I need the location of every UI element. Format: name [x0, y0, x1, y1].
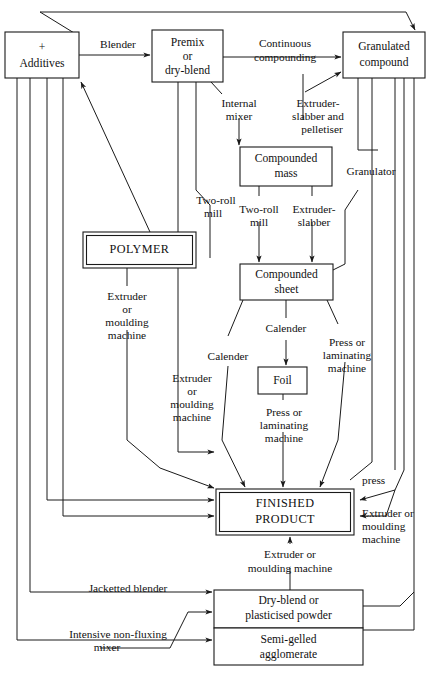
label-pl1-l1: laminating — [323, 349, 372, 361]
label-granulator: Granulator — [347, 165, 396, 177]
label-em3-l2: machine — [362, 533, 400, 545]
box-granulated-line-1: compound — [360, 56, 409, 69]
label-press-laminating-1: Press or laminating machine — [323, 336, 372, 374]
box-semigelled-line-0: Semi-gelled — [260, 633, 316, 646]
label-calender-1: Calender — [266, 322, 307, 334]
label-tworoll1-l1: mill — [204, 207, 222, 219]
box-compounded-sheet[interactable]: Compounded sheet — [240, 264, 333, 300]
label-em2-l0: Extruder — [172, 372, 212, 384]
label-pelletiser-l1: slabber and — [292, 110, 344, 122]
label-intensive-l0: Intensive non-fluxing — [69, 628, 167, 640]
label-extruder-slabber-pelletiser: Extruder- slabber and pelletiser — [292, 97, 344, 135]
label-em4-l0: Extruder or — [264, 548, 316, 560]
label-em3-l0: Extruder or — [362, 507, 414, 519]
edge-granulated-down-1 — [350, 78, 372, 480]
box-csheet-line-1: sheet — [275, 283, 300, 296]
label-pelletiser-l2: pelletiser — [301, 123, 343, 135]
label-pl2-l0: Press or — [266, 406, 302, 418]
label-calender-2: Calender — [208, 350, 249, 362]
box-additives-line-0: + — [39, 41, 46, 54]
label-extruder-moulding-3: Extruder or moulding machine — [362, 507, 414, 545]
connector-lines — [17, 12, 415, 648]
edge-granulated-granulator-a — [358, 78, 378, 150]
label-em1-l3: machine — [108, 329, 146, 341]
label-continuous-l0: Continuous — [259, 37, 311, 49]
box-dry-blend[interactable]: Dry-blend or plasticised powder — [214, 590, 363, 628]
label-extruder-slabber: Extruder- slabber — [292, 203, 335, 228]
label-two-roll-mill-2: Two-roll mill — [239, 203, 278, 228]
label-pl1-l2: machine — [328, 362, 366, 374]
label-em2-l1: or — [187, 385, 197, 397]
edge-press-to-finished — [320, 362, 345, 487]
label-two-roll-mill-1: Two-roll mill — [196, 194, 235, 219]
edge-polymer-to-additives — [81, 82, 150, 232]
box-foil-label: Foil — [273, 374, 292, 387]
label-extruder-moulding-1: Extruder or moulding machine — [105, 290, 149, 341]
label-em4-l1: moulding machine — [248, 562, 332, 574]
label-internal-mixer: Internal mixer — [221, 97, 256, 122]
box-dryblend-line-1: plasticised powder — [245, 609, 332, 622]
edge-csheet-calender2-stem — [228, 300, 243, 336]
box-finished-line-0: FINISHED — [256, 496, 315, 510]
label-pelletiser-l0: Extruder- — [296, 97, 339, 109]
edge-additives-down-1 — [17, 78, 212, 640]
label-intensive-l1: mixer — [94, 641, 121, 653]
label-tworoll1-l0: Two-roll — [196, 194, 235, 206]
box-cmass-line-1: mass — [274, 167, 298, 180]
edge-csheet-press-stem — [327, 300, 338, 324]
box-finished-line-1: PRODUCT — [255, 512, 315, 526]
edge-calender2-to-finished — [222, 366, 245, 487]
label-em1-l2: moulding — [105, 316, 149, 328]
box-finished-product[interactable]: FINISHED PRODUCT — [216, 489, 354, 535]
edge-pelletiser-to-granulated — [305, 72, 341, 92]
label-internal-l1: mixer — [226, 110, 253, 122]
box-premix-line-0: Premix — [171, 36, 205, 49]
label-em1-l0: Extruder — [107, 290, 147, 302]
label-press: press — [362, 474, 385, 486]
box-granulated-line-0: Granulated — [358, 40, 410, 53]
label-tworoll2-l0: Two-roll — [239, 203, 278, 215]
label-slabber-l1: slabber — [298, 216, 331, 228]
label-extruder-moulding-4: Extruder or moulding machine — [248, 548, 332, 574]
label-jacketted-blender: Jacketted blender — [89, 582, 168, 594]
box-granulated-compound[interactable]: Granulated compound — [343, 32, 425, 78]
label-em2-l2: moulding — [170, 398, 214, 410]
box-premix-line-2: dry-blend — [165, 64, 210, 77]
edge-premix-to-internalmixer — [211, 82, 222, 94]
label-em1-l1: or — [122, 303, 132, 315]
label-em2-l3: machine — [173, 411, 211, 423]
flowchart-canvas: + Additives Premix or dry-blend Granulat… — [0, 0, 434, 675]
box-cmass-line-0: Compounded — [255, 152, 318, 165]
label-press-laminating-2: Press or laminating machine — [260, 406, 309, 444]
box-compounded-mass[interactable]: Compounded mass — [240, 147, 332, 186]
label-em3-l1: moulding — [362, 520, 406, 532]
box-premix-line-1: or — [183, 50, 193, 63]
label-blender: Blender — [100, 38, 136, 50]
box-polymer[interactable]: POLYMER — [83, 232, 196, 268]
edge-granulator-to-csheet — [333, 190, 358, 270]
label-extruder-moulding-2: Extruder or moulding machine — [170, 372, 214, 423]
box-polymer-label: POLYMER — [110, 242, 170, 256]
box-premix[interactable]: Premix or dry-blend — [152, 30, 223, 82]
box-semigelled-line-1: agglomerate — [260, 648, 317, 661]
box-foil[interactable]: Foil — [258, 367, 307, 394]
box-additives-line-1: Additives — [19, 57, 65, 70]
label-pl2-l2: machine — [265, 432, 303, 444]
label-continuous-l1: compounding — [254, 51, 316, 63]
label-pl1-l0: Press or — [329, 336, 365, 348]
box-dryblend-line-0: Dry-blend or — [258, 594, 318, 607]
label-tworoll2-l1: mill — [250, 216, 268, 228]
box-csheet-line-0: Compounded — [255, 268, 318, 281]
label-continuous-compounding: Continuous compounding — [254, 37, 316, 63]
box-additives[interactable]: + Additives — [5, 32, 79, 78]
label-slabber-l0: Extruder- — [292, 203, 335, 215]
label-internal-l0: Internal — [221, 97, 256, 109]
edge-dryblend-return — [363, 592, 414, 606]
box-semi-gelled[interactable]: Semi-gelled agglomerate — [214, 628, 363, 665]
label-pl2-l1: laminating — [260, 419, 309, 431]
edge-labels-layer: Blender Continuous compounding Internal … — [69, 37, 414, 653]
